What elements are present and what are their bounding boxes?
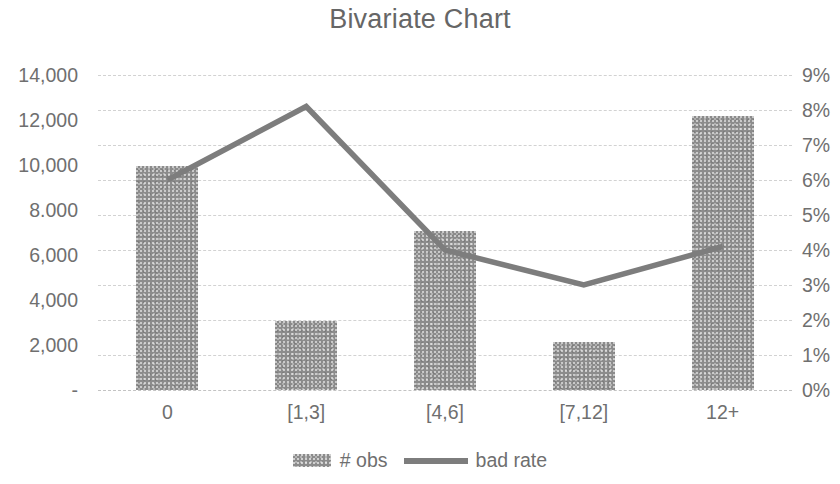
plot-area — [98, 75, 792, 390]
left-axis-tick-label: - — [0, 379, 78, 402]
legend-item-bad-rate: bad rate — [388, 449, 548, 472]
right-axis-tick-label: 9% — [802, 64, 840, 87]
right-axis-tick-label: 3% — [802, 274, 840, 297]
line-series — [98, 75, 792, 390]
x-axis-tick-label: 0 — [162, 401, 173, 424]
left-axis-tick-label: 12,000 — [0, 109, 78, 132]
left-axis-tick-label: 4,000 — [0, 289, 78, 312]
left-axis-tick-label: 8.000 — [0, 199, 78, 222]
legend-label-obs: # obs — [340, 449, 388, 472]
right-axis-tick-label: 4% — [802, 239, 840, 262]
right-axis-tick-label: 6% — [802, 169, 840, 192]
right-axis-tick-label: 1% — [802, 344, 840, 367]
gridline — [98, 390, 792, 391]
chart-title: Bivariate Chart — [0, 4, 840, 35]
x-axis-tick-label: 12+ — [706, 401, 739, 424]
chart-legend: # obs bad rate — [0, 449, 840, 472]
right-axis-tick-label: 7% — [802, 134, 840, 157]
right-axis-tick-label: 2% — [802, 309, 840, 332]
right-axis-tick-label: 8% — [802, 99, 840, 122]
left-axis-tick-label: 2,000 — [0, 334, 78, 357]
legend-label-bad-rate: bad rate — [476, 449, 548, 472]
left-axis-tick-label: 6,000 — [0, 244, 78, 267]
legend-item-obs: # obs — [293, 449, 388, 472]
bar-swatch-icon — [293, 454, 331, 467]
x-axis-tick-label: [1,3] — [287, 401, 325, 424]
left-axis-tick-label: 10,000 — [0, 154, 78, 177]
x-axis-tick-label: [7,12] — [559, 401, 608, 424]
right-axis-tick-label: 5% — [802, 204, 840, 227]
left-axis-tick-label: 14,000 — [0, 64, 78, 87]
line-swatch-icon — [404, 458, 468, 464]
bad-rate-line — [167, 107, 722, 286]
x-axis-tick-label: [4,6] — [426, 401, 464, 424]
right-axis-tick-label: 0% — [802, 379, 840, 402]
bivariate-chart: Bivariate Chart 14,00012,00010,0008.0006… — [0, 0, 840, 484]
